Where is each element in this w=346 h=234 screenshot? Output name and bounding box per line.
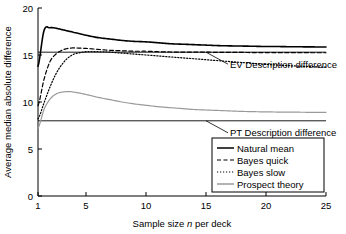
annotation-label-ev-description-difference: EV Description difference <box>230 59 337 70</box>
legend-label: Natural mean <box>237 143 294 154</box>
y-tick-label-5: 5 <box>28 144 33 155</box>
y-axis-tick-labels: 05101520 <box>22 3 33 202</box>
legend-label: Bayes quick <box>237 155 288 166</box>
x-tick-label-1: 1 <box>35 200 40 211</box>
chart-legend[interactable]: Natural meanBayes quickBayes slowProspec… <box>212 138 324 192</box>
x-axis-label-part1: Sample size <box>133 218 187 229</box>
y-tick-label-15: 15 <box>22 50 33 61</box>
x-tick-label-5: 5 <box>83 200 88 211</box>
y-tick-label-0: 0 <box>28 191 33 202</box>
line-chart: 1510152025 05101520 EV Description diffe… <box>0 0 346 234</box>
x-axis-tick-labels: 1510152025 <box>35 200 331 211</box>
x-axis-label-part2: per deck <box>192 218 231 229</box>
legend-label: Prospect theory <box>237 179 304 190</box>
x-axis-label: Sample size n per deck <box>133 218 232 229</box>
chart-figure: 1510152025 05101520 EV Description diffe… <box>0 0 346 234</box>
y-axis-label: Average median absolute difference <box>2 26 13 178</box>
x-tick-label-25: 25 <box>321 200 332 211</box>
annotation-label-pt-description-difference: PT Description difference <box>230 127 336 138</box>
y-tick-label-10: 10 <box>22 97 33 108</box>
x-tick-label-20: 20 <box>261 200 272 211</box>
y-tick-label-20: 20 <box>22 3 33 14</box>
x-tick-label-10: 10 <box>141 200 152 211</box>
x-tick-label-15: 15 <box>201 200 212 211</box>
legend-label: Bayes slow <box>237 167 285 178</box>
